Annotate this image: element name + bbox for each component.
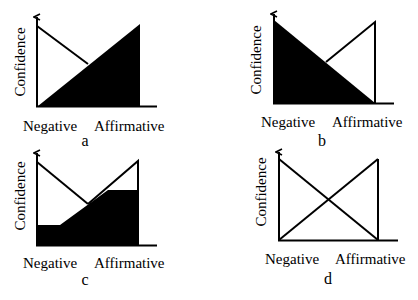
y-axis-label: Confidence bbox=[12, 161, 28, 230]
y-axis-label: Confidence bbox=[12, 27, 28, 96]
x-label-affirmative: Affirmative bbox=[94, 255, 165, 271]
x-label-affirmative: Affirmative bbox=[332, 114, 403, 130]
panel-b: Confidence Negative Affirmative b bbox=[248, 14, 403, 149]
x-label-affirmative: Affirmative bbox=[94, 118, 165, 134]
panel-letter: b bbox=[318, 132, 326, 149]
panel-d: Confidence Negative Affirmative d bbox=[253, 152, 406, 287]
negative-confidence-line bbox=[37, 162, 88, 204]
panel-c: Confidence Negative Affirmative c bbox=[12, 153, 165, 288]
x-label-negative: Negative bbox=[23, 118, 77, 134]
negative-confidence-line bbox=[37, 26, 88, 64]
panel-a: Confidence Negative Affirmative a bbox=[12, 17, 165, 149]
x-label-affirmative: Affirmative bbox=[335, 251, 406, 267]
figure-canvas: Confidence Negative Affirmative a Confid… bbox=[0, 0, 418, 300]
panel-letter: a bbox=[81, 132, 88, 149]
clipped-fill-area bbox=[37, 190, 138, 245]
panel-letter: d bbox=[324, 270, 332, 287]
panel-letter: c bbox=[81, 271, 88, 288]
x-label-negative: Negative bbox=[23, 255, 77, 271]
x-label-negative: Negative bbox=[265, 251, 319, 267]
y-axis-label: Confidence bbox=[248, 25, 264, 94]
affirmative-fill-area bbox=[38, 24, 140, 106]
y-axis-label: Confidence bbox=[253, 157, 269, 226]
x-label-negative: Negative bbox=[261, 114, 315, 130]
negative-fill-area bbox=[274, 20, 375, 103]
